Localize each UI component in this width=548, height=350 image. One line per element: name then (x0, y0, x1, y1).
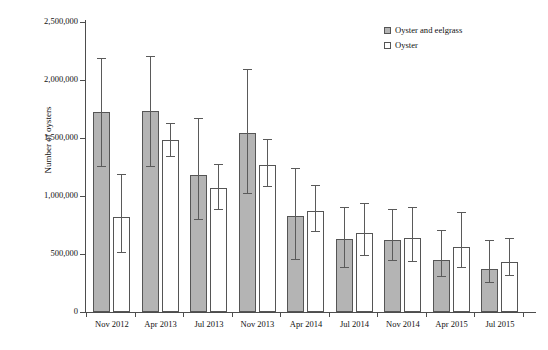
error-bar-cap-lower (97, 166, 106, 167)
x-tick-mark (232, 312, 233, 317)
error-bar-line (295, 169, 296, 259)
error-bar-cap-upper (97, 58, 106, 59)
error-bar-cap-upper (291, 168, 300, 169)
error-bar-cap-lower (243, 193, 252, 194)
error-bar-cap-lower (408, 261, 417, 262)
error-bar-line (392, 210, 393, 261)
error-bar-line (412, 208, 413, 263)
error-bar-cap-upper (505, 238, 514, 239)
error-bar-cap-lower (505, 275, 514, 276)
error-bar-cap-lower (291, 259, 300, 260)
bar-group (287, 22, 325, 312)
y-tick-label: 1,500,000 (0, 133, 78, 142)
bar-group (336, 22, 374, 312)
error-bar-cap-lower (263, 186, 272, 187)
error-bar-cap-upper (437, 230, 446, 231)
error-bar-cap-lower (340, 267, 349, 268)
y-tick-label: 2,000,000 (0, 75, 78, 84)
error-bar-cap-lower (437, 276, 446, 277)
oyster-abundance-bar-chart: Number of oysters 0500,0001,000,0001,500… (0, 0, 548, 350)
x-tick-mark (377, 312, 378, 317)
error-bar-cap-upper (360, 203, 369, 204)
error-bar-line (267, 140, 268, 186)
x-tick-mark (86, 312, 87, 317)
error-bar-line (101, 59, 102, 167)
bar-group (481, 22, 519, 312)
error-bar-cap-upper (311, 185, 320, 186)
error-bar-cap-upper (166, 123, 175, 124)
error-bar-line (315, 186, 316, 232)
x-tick-mark (280, 312, 281, 317)
error-bar-cap-upper (340, 207, 349, 208)
error-bar-line (461, 213, 462, 268)
error-bar-line (364, 204, 365, 256)
y-tick-label: 0 (0, 307, 78, 316)
error-bar-cap-lower (485, 282, 494, 283)
error-bar-cap-upper (214, 164, 223, 165)
x-tick-mark (474, 312, 475, 317)
x-axis-line (85, 312, 536, 313)
x-tick-mark (426, 312, 427, 317)
legend-swatch-filled-icon (384, 27, 391, 34)
error-bar-cap-lower (214, 209, 223, 210)
error-bar-cap-upper (388, 209, 397, 210)
legend-label: Oyster (395, 39, 418, 51)
error-bar-line (247, 70, 248, 194)
error-bar-cap-lower (457, 267, 466, 268)
y-tick-label: 1,000,000 (0, 191, 78, 200)
x-tick-mark (329, 312, 330, 317)
legend-label: Oyster and eelgrass (395, 24, 462, 36)
error-bar-line (344, 208, 345, 268)
error-bar-cap-lower (194, 219, 203, 220)
error-bar-line (150, 57, 151, 167)
error-bar-cap-upper (263, 139, 272, 140)
error-bar-cap-lower (311, 231, 320, 232)
error-bar-line (170, 124, 171, 156)
error-bar-line (198, 119, 199, 220)
x-tick-mark (523, 312, 524, 317)
bar-group (142, 22, 180, 312)
error-bar-cap-upper (457, 212, 466, 213)
error-bar-cap-upper (408, 207, 417, 208)
error-bar-line (509, 239, 510, 276)
x-tick-label: Jul 2015 (467, 320, 533, 329)
y-tick-label: 500,000 (0, 249, 78, 258)
chart-legend: Oyster and eelgrassOyster (384, 24, 462, 54)
legend-item: Oyster and eelgrass (384, 24, 462, 36)
bar-group (433, 22, 471, 312)
error-bar-cap-upper (146, 56, 155, 57)
legend-swatch-open-icon (384, 42, 391, 49)
x-tick-mark (183, 312, 184, 317)
error-bar-line (489, 241, 490, 283)
error-bar-cap-lower (388, 260, 397, 261)
error-bar-cap-upper (117, 174, 126, 175)
bar-group (384, 22, 422, 312)
bar-group (239, 22, 277, 312)
legend-item: Oyster (384, 39, 462, 51)
error-bar-cap-upper (243, 69, 252, 70)
error-bar-cap-upper (485, 240, 494, 241)
error-bar-cap-lower (166, 156, 175, 157)
plot-area (86, 22, 535, 312)
error-bar-line (218, 165, 219, 210)
error-bar-cap-lower (360, 255, 369, 256)
error-bar-cap-upper (194, 118, 203, 119)
error-bar-cap-lower (146, 166, 155, 167)
bar-group (190, 22, 228, 312)
y-tick-label: 2,500,000 (0, 17, 78, 26)
error-bar-line (121, 175, 122, 253)
bar-oyster (259, 165, 276, 312)
bar-oyster (162, 140, 179, 312)
error-bar-line (441, 231, 442, 277)
x-tick-mark (135, 312, 136, 317)
error-bar-cap-lower (117, 252, 126, 253)
bar-group (93, 22, 131, 312)
